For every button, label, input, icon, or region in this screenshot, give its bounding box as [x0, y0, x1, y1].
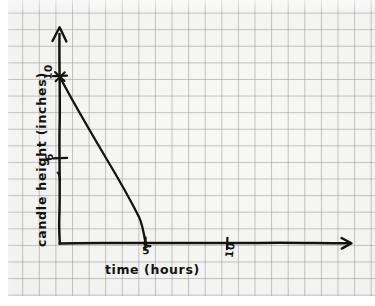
y-tick-label-6: 6: [43, 153, 55, 161]
x-tick-label-10: 10: [223, 242, 237, 259]
y-tick-6: [53, 158, 67, 159]
candle-height-line: [60, 78, 145, 244]
graph-paper-screenshot: candle height (inches) time (hours) 10 6…: [0, 0, 375, 306]
y-tick-label-10: 10: [41, 64, 54, 80]
y-axis-line: [59, 34, 60, 244]
x-tick-label-5: 5: [141, 244, 150, 257]
hand-drawn-ink-layer: [0, 0, 375, 306]
x-axis-line: [60, 243, 350, 244]
x-axis-label: time (hours): [105, 262, 200, 277]
